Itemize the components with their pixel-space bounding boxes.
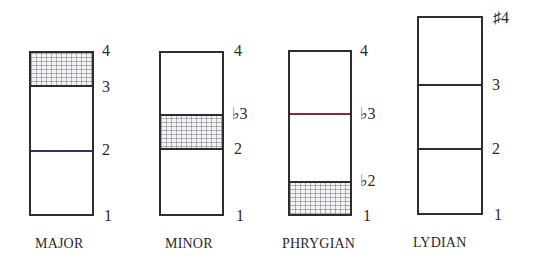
phrygian-label-4: 4: [360, 43, 368, 59]
minor-degree-2-line: [161, 148, 222, 150]
minor-mode-title: MINOR: [165, 237, 213, 251]
major-box: [29, 51, 94, 216]
phrygian-label-1: 1: [363, 208, 371, 224]
lydian-mode-title: LYDIAN: [413, 236, 466, 250]
minor-label-2: 2: [234, 141, 242, 157]
phrygian-degree-b2-line: [290, 181, 350, 183]
lydian-label-1: 1: [494, 207, 502, 223]
lydian-label-sharp4: ♯4: [493, 10, 509, 26]
minor-half-step-hatch: [161, 114, 222, 149]
lydian-degree-2-line: [419, 148, 481, 150]
major-label-4: 4: [102, 43, 110, 59]
phrygian-label-b2: ♭2: [360, 173, 376, 189]
minor-label-4: 4: [234, 43, 242, 59]
lydian-box: [417, 16, 483, 215]
phrygian-label-b3: ♭3: [360, 106, 376, 122]
minor-box: [159, 51, 224, 216]
phrygian-half-step-hatch: [290, 181, 350, 214]
lydian-label-2: 2: [492, 141, 500, 157]
major-label-1: 1: [104, 208, 112, 224]
major-label-3: 3: [102, 79, 110, 95]
minor-degree-b3-line: [161, 114, 222, 116]
minor-label-1: 1: [236, 208, 244, 224]
phrygian-degree-b3-line: [290, 113, 350, 115]
phrygian-box: [288, 50, 352, 216]
major-degree-3-line: [31, 85, 92, 87]
major-half-step-hatch: [31, 53, 92, 87]
major-degree-2-line: [31, 150, 92, 152]
phrygian-mode-title: PHRYGIAN: [282, 237, 355, 251]
lydian-degree-3-line: [419, 84, 481, 86]
major-label-2: 2: [102, 142, 110, 158]
lydian-label-3: 3: [492, 77, 500, 93]
major-mode-title: MAJOR: [35, 237, 83, 251]
minor-label-b3: ♭3: [232, 106, 248, 122]
